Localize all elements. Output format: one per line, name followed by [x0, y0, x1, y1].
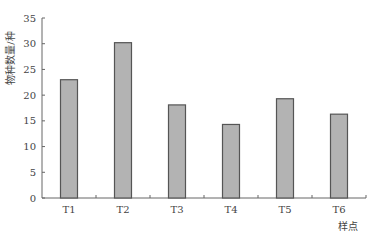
bar-chart: 05101520253035 T1T2T3T4T5T6 物种数量/种 样点 [0, 0, 378, 239]
x-tick-label: T1 [62, 204, 75, 215]
x-tick-label: T6 [332, 204, 345, 215]
y-tick-label: 35 [23, 13, 36, 24]
x-axis: T1T2T3T4T5T6 [42, 195, 366, 215]
x-axis-label: 样点 [338, 220, 358, 232]
x-tick-label: T5 [278, 204, 291, 215]
y-tick-label: 30 [23, 38, 36, 49]
bar-t6 [331, 114, 348, 198]
y-axis-label: 物种数量/种 [4, 31, 16, 84]
y-tick-label: 25 [23, 64, 36, 75]
bar-t2 [115, 43, 132, 198]
y-tick-label: 20 [23, 90, 36, 101]
x-tick-label: T3 [170, 204, 183, 215]
y-tick-label: 10 [23, 141, 36, 152]
chart-canvas: 05101520253035 T1T2T3T4T5T6 物种数量/种 样点 [0, 0, 378, 239]
bars [61, 43, 348, 198]
y-tick-label: 5 [30, 167, 36, 178]
x-tick-label: T2 [116, 204, 129, 215]
bar-t1 [61, 80, 78, 198]
y-tick-label: 15 [23, 115, 36, 126]
y-tick-label: 0 [30, 193, 36, 204]
y-axis: 05101520253035 [23, 13, 45, 204]
bar-t4 [223, 124, 240, 198]
bar-t5 [277, 99, 294, 198]
bar-t3 [169, 105, 186, 198]
x-tick-label: T4 [224, 204, 237, 215]
